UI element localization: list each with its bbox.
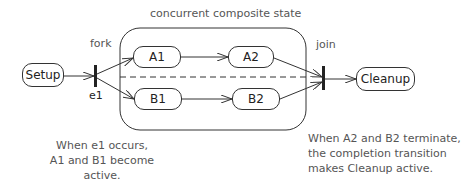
note-join-line-2: the completion transition (308, 146, 461, 161)
note-fork: When e1 occurs, A1 and B1 become active. (36, 138, 168, 183)
note-fork-line-1: When e1 occurs, (36, 138, 168, 153)
event-label: e1 (89, 89, 103, 102)
state-setup[interactable]: Setup (22, 63, 64, 87)
fork-label: fork (90, 37, 112, 50)
note-join-line-1: When A2 and B2 terminate, (308, 131, 461, 146)
state-b1[interactable]: B1 (134, 88, 182, 110)
transition-a2-join (274, 58, 322, 77)
fork-bar (94, 65, 97, 87)
join-bar (322, 66, 325, 90)
note-fork-line-2: A1 and B1 become active. (36, 153, 168, 183)
note-join: When A2 and B2 terminate, the completion… (308, 131, 461, 176)
composite-state-label: concurrent composite state (150, 7, 301, 20)
state-a1[interactable]: A1 (133, 46, 181, 68)
transition-fork-a1 (97, 58, 133, 74)
composite-state-box (120, 28, 306, 130)
join-label: join (316, 38, 336, 51)
state-cleanup[interactable]: Cleanup (356, 67, 415, 91)
note-join-line-3: makes Cleanup active. (308, 161, 461, 176)
transition-b2-join (280, 82, 322, 99)
state-b2[interactable]: B2 (232, 88, 280, 110)
state-a2[interactable]: A2 (228, 46, 274, 68)
